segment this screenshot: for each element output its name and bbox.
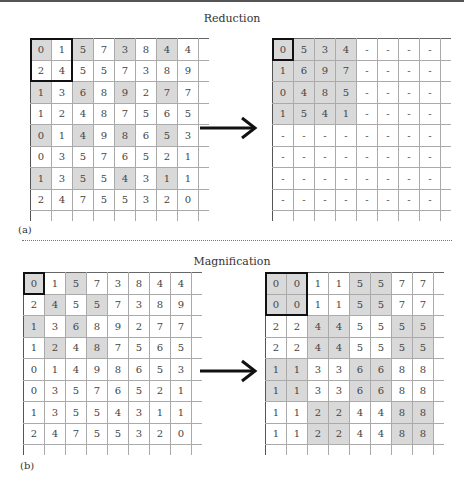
grid-cell: 1: [287, 359, 308, 381]
grid-cell-empty: [308, 445, 329, 456]
grid-cell: 5: [73, 60, 94, 82]
grid-cell: 1: [266, 402, 287, 424]
grid-cell-empty: [108, 445, 129, 456]
grid-cell: -: [420, 60, 441, 82]
grid-cell: 5: [87, 423, 108, 445]
grid-cell: 6: [66, 316, 87, 338]
grid-cell: -: [420, 125, 441, 147]
grid-cell: -: [378, 189, 399, 211]
grid-cell: 2: [129, 316, 150, 338]
grid-cell: 7: [157, 82, 178, 104]
grid-cell-empty: [66, 445, 87, 456]
grid-cell-empty: [129, 445, 150, 456]
grid-cell-empty: [192, 337, 203, 359]
grid-cell: 2: [24, 423, 45, 445]
highlight-box: [30, 38, 73, 82]
grid-cell-empty: [441, 211, 452, 222]
grid-cell: 5: [73, 39, 94, 61]
grid-cell-empty: [136, 211, 157, 222]
grid-cell: 7: [150, 316, 171, 338]
grid-cell: -: [294, 168, 315, 190]
grid-cell: 3: [171, 359, 192, 381]
grid-cell: 0: [24, 380, 45, 402]
grid-cell: 3: [315, 39, 336, 61]
grid-cell-empty: [441, 189, 452, 211]
grid-cell: 8: [392, 359, 413, 381]
grid-cell: 9: [171, 294, 192, 316]
grid-cell: 5: [129, 380, 150, 402]
grid-cell: 5: [94, 189, 115, 211]
grid-cell: -: [399, 168, 420, 190]
grid-cell-empty: [73, 211, 94, 222]
grid-cell: 5: [171, 337, 192, 359]
grid-cell-empty: [266, 445, 287, 456]
grid-cell-empty: [357, 211, 378, 222]
grid-cell: 9: [108, 316, 129, 338]
grid-cell: 7: [108, 294, 129, 316]
grid-cell: -: [399, 39, 420, 61]
grid-cell: 9: [178, 60, 199, 82]
grid-cell: 4: [73, 125, 94, 147]
grid-cell: 1: [178, 146, 199, 168]
grid-cell: 1: [45, 273, 66, 295]
grid-cell-empty: [441, 39, 452, 61]
grid-cell: 5: [136, 146, 157, 168]
grid-cell: 8: [150, 294, 171, 316]
grid-cell: 4: [315, 103, 336, 125]
grid-cell: -: [378, 168, 399, 190]
grid-cell: 2: [150, 380, 171, 402]
grid-cell: -: [357, 82, 378, 104]
grid-cell: 0: [178, 189, 199, 211]
grid-cell-empty: [378, 211, 399, 222]
grid-cell: 5: [150, 359, 171, 381]
grid-cell: 3: [115, 39, 136, 61]
grid-cell: 2: [266, 337, 287, 359]
grid-cell: 7: [66, 423, 87, 445]
grid-cell: -: [357, 189, 378, 211]
grid-cell: 4: [350, 402, 371, 424]
grid-cell: 1: [45, 359, 66, 381]
grid-cell: -: [294, 125, 315, 147]
grid-cell-empty: [441, 60, 452, 82]
grid-cell: 3: [129, 423, 150, 445]
grid-cell: 8: [413, 380, 434, 402]
grid-cell: 6: [294, 60, 315, 82]
top-rule: [0, 0, 464, 2]
grid-cell: 5: [413, 316, 434, 338]
highlight-box: [272, 38, 294, 61]
grid-cell: 8: [94, 82, 115, 104]
grid-cell: 7: [392, 273, 413, 295]
grid-cell-empty: [441, 168, 452, 190]
grid-cell: 3: [52, 82, 73, 104]
grid-cell: 5: [392, 316, 413, 338]
grid-cell: 6: [350, 359, 371, 381]
grid-cell: 2: [24, 294, 45, 316]
grid-cell: 3: [329, 359, 350, 381]
grid-cell: 9: [87, 359, 108, 381]
grid-cell: 4: [45, 423, 66, 445]
grid-cell: 4: [171, 273, 192, 295]
grid-cell-empty: [192, 316, 203, 338]
grid-cell: -: [336, 168, 357, 190]
grid-cell-empty: [192, 294, 203, 316]
grid-cell: -: [420, 103, 441, 125]
grid-cell: -: [378, 103, 399, 125]
grid-cell-empty: [87, 445, 108, 456]
grid-cell: 6: [129, 359, 150, 381]
grid-cell-empty: [192, 402, 203, 424]
grid-cell: 5: [136, 103, 157, 125]
grid-cell: 1: [24, 402, 45, 424]
grid-cell-empty: [441, 103, 452, 125]
grid-cell: -: [378, 146, 399, 168]
grid-cell: -: [378, 125, 399, 147]
grid-cell: 6: [150, 337, 171, 359]
right-arrow-icon: [198, 359, 260, 383]
grid-cell: 2: [31, 189, 52, 211]
grid-cell: 3: [45, 402, 66, 424]
grid-cell: 5: [371, 337, 392, 359]
grid-cell: 9: [315, 60, 336, 82]
grid-cell: -: [357, 146, 378, 168]
grid-cell: 2: [52, 103, 73, 125]
grid-cell: 4: [73, 103, 94, 125]
grid-cell-empty: [371, 445, 392, 456]
